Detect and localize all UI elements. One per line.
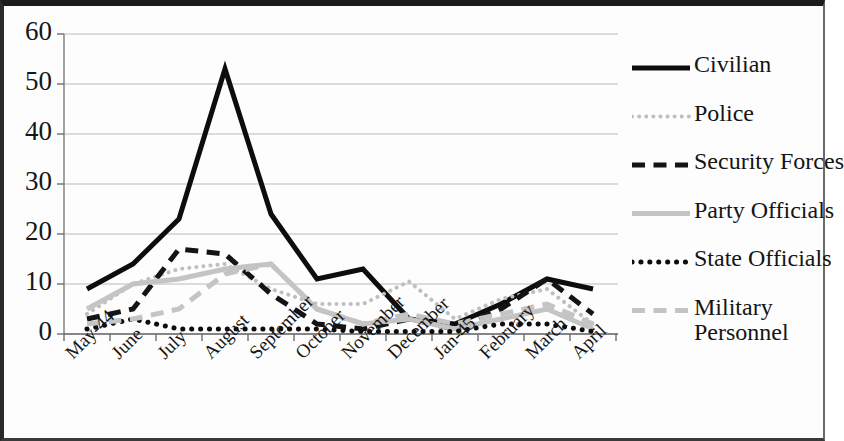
legend-label-police: Police [694,101,754,126]
y-axis-tick-label: 30 [6,166,52,197]
legend-label-civilian: Civilian [694,52,771,77]
y-axis-tick-label: 0 [6,316,52,347]
y-axis-tick-label: 20 [6,216,52,247]
legend-label-military-personnel: Military Personnel [694,295,844,345]
series-line-civilian [87,69,593,324]
y-axis-tick-label: 50 [6,66,52,97]
y-axis-tick-label: 40 [6,116,52,147]
legend-label-state-officials: State Officials [694,246,832,271]
legend-label-party-officials: Party Officials [694,198,834,223]
y-axis-tick-label: 60 [6,16,52,47]
legend-label-security-forces: Security Forces [694,149,844,174]
y-axis-tick-label: 10 [6,266,52,297]
